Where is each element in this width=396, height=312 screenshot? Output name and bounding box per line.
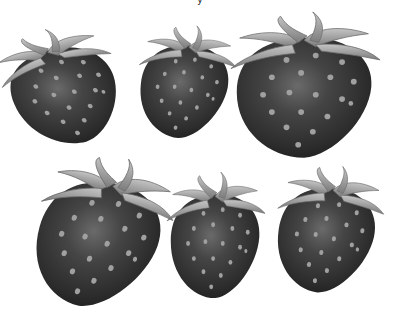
strawberry-6 bbox=[272, 165, 382, 295]
strawberry-illustration: y bbox=[0, 0, 396, 312]
strawberry-3 bbox=[228, 12, 383, 160]
strawberry-1 bbox=[5, 28, 127, 146]
strawberry-5 bbox=[165, 172, 267, 300]
strawberry-4 bbox=[30, 155, 168, 310]
cropped-text-fragment: y bbox=[197, 0, 203, 5]
strawberry-2 bbox=[135, 25, 235, 140]
